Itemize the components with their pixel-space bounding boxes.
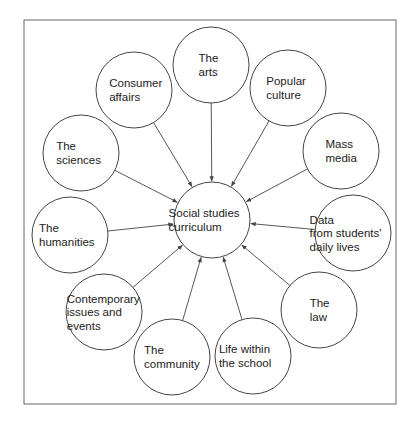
arrow-law-to-center [242,245,290,285]
node-humanities: Thehumanities [32,197,108,273]
arrow-community-to-center [183,257,201,320]
node-law: Thelaw [281,272,357,348]
node-label: sciences [56,154,101,166]
node-label: daily lives [310,241,360,253]
node-label: The [199,52,219,64]
arrow-data-to-center [251,224,315,230]
node-arts: Thearts [173,27,249,103]
node-consumer: Consumeraffairs [96,52,172,128]
node-label: Consumer [109,77,162,89]
node-label: curriculum [169,221,222,233]
node-contemporary: Contemporaryissues andevents [66,274,142,350]
arrow-sciences-to-center [115,170,177,202]
node-label: community [144,358,200,370]
arrow-consumer-to-center [154,123,192,187]
node-mass-media: Massmedia [303,113,379,189]
node-popular: Popularculture [250,50,326,126]
node-label: Contemporary [67,293,140,305]
node-label: humanities [39,236,95,248]
node-label: Life within [219,343,270,355]
node-sciences: Thesciences [43,115,119,191]
node-label: Data [310,214,335,226]
node-label: The [39,222,59,234]
node-life: Life withinthe school [215,318,291,394]
node-label: from students' [310,227,382,239]
node-label: issues and [67,306,122,318]
node-label: Popular [266,75,306,87]
node-label: culture [266,89,301,101]
arrow-arts-to-center [211,103,212,181]
node-data: Datafrom students'daily lives [310,195,391,271]
node-label: The [310,297,330,309]
nodes: Social studiescurriculumTheartsConsumera… [32,27,391,395]
node-label: the school [219,357,271,369]
arrow-mass-media-to-center [246,169,307,202]
node-label: Social studies [169,207,240,219]
node-label: The [144,344,164,356]
node-label: Mass [326,138,354,150]
node-label: media [326,152,358,164]
arrow-humanities-to-center [108,224,173,231]
node-community: Thecommunity [134,319,210,395]
node-label: affairs [109,91,140,103]
arrow-life-to-center [223,257,242,319]
node-label: arts [199,66,218,78]
curriculum-diagram: Social studiescurriculumTheartsConsumera… [0,0,416,424]
arrow-popular-to-center [231,121,269,186]
node-label: The [56,140,76,152]
node-label: law [310,311,328,323]
node-label: events [67,320,101,332]
arrow-contemporary-to-center [133,245,182,287]
